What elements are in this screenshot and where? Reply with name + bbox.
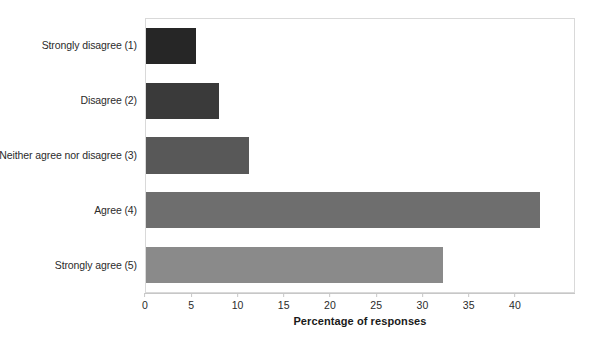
category-axis: Strongly disagree (1) Disagree (2) Neith…: [0, 18, 142, 293]
x-tick-label: 35: [463, 299, 475, 311]
category-label: Agree (4): [94, 204, 137, 216]
x-tick: 40: [509, 293, 521, 311]
x-tick: 10: [232, 293, 244, 311]
x-tick-mark: [468, 293, 469, 297]
category-label-row: Strongly disagree (1): [0, 18, 142, 73]
x-tick-mark: [514, 293, 515, 297]
x-tick-mark: [191, 293, 192, 297]
bar-row: [146, 183, 574, 238]
category-label-row: Neither agree nor disagree (3): [0, 128, 142, 183]
x-tick-mark: [329, 293, 330, 297]
x-tick-label: 15: [278, 299, 290, 311]
x-tick: 25: [370, 293, 382, 311]
x-tick-label: 25: [370, 299, 382, 311]
bar-row: [146, 19, 574, 74]
x-tick-label: 0: [142, 299, 148, 311]
bar-disagree: [146, 83, 219, 119]
x-tick-label: 5: [188, 299, 194, 311]
bar-strongly-disagree: [146, 28, 196, 64]
bar-strongly-agree: [146, 247, 443, 283]
bar-row: [146, 128, 574, 183]
x-tick-mark: [237, 293, 238, 297]
x-tick-label: 40: [509, 299, 521, 311]
category-label: Disagree (2): [80, 94, 137, 106]
x-tick-label: 30: [417, 299, 429, 311]
x-tick-mark: [376, 293, 377, 297]
plot-area: [145, 18, 575, 293]
x-tick: 20: [324, 293, 336, 311]
x-tick-mark: [422, 293, 423, 297]
x-tick-label: 20: [324, 299, 336, 311]
x-tick-label: 10: [232, 299, 244, 311]
bar-chart-figure: Strongly disagree (1) Disagree (2) Neith…: [0, 0, 594, 341]
x-axis-title: Percentage of responses: [145, 315, 575, 327]
category-label: Neither agree nor disagree (3): [0, 149, 137, 161]
category-label-row: Disagree (2): [0, 73, 142, 128]
x-tick: 35: [463, 293, 475, 311]
x-tick-mark: [283, 293, 284, 297]
x-tick: 0: [142, 293, 148, 311]
x-tick: 30: [417, 293, 429, 311]
x-tick: 5: [188, 293, 194, 311]
bar-neither: [146, 137, 249, 173]
x-axis-ticks: 0510152025303540: [145, 293, 575, 313]
category-label: Strongly disagree (1): [42, 39, 137, 51]
category-label: Strongly agree (5): [55, 259, 137, 271]
category-label-row: Agree (4): [0, 183, 142, 238]
x-tick-mark: [145, 293, 146, 297]
x-tick: 15: [278, 293, 290, 311]
bar-row: [146, 74, 574, 129]
bars-layer: [146, 19, 574, 292]
category-label-row: Strongly agree (5): [0, 238, 142, 293]
bar-agree: [146, 192, 540, 228]
bar-row: [146, 237, 574, 292]
